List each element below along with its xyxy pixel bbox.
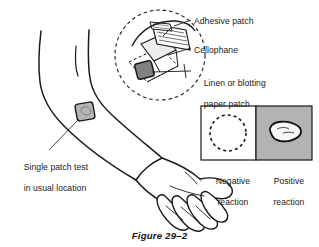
- leader-line-single-patch: [49, 119, 79, 150]
- callout-label-adhesive-patch: Adhesive patch: [194, 16, 253, 26]
- panel-label-negative-line2: reaction: [217, 197, 248, 207]
- panel-label-positive-line1: Positive: [274, 176, 305, 186]
- panel-label-negative-reaction: Negative reaction: [202, 166, 254, 218]
- callout-label-linen-line1: Linen or blotting: [204, 78, 266, 88]
- panel-label-negative-line1: Negative: [216, 176, 250, 186]
- arm-patch: [75, 102, 96, 122]
- callout-label-single-line2: in usual location: [24, 183, 86, 193]
- callout-label-cellophane: Cellophane: [194, 45, 238, 55]
- callout-label-single-patch-test: Single patch test in usual location: [14, 152, 88, 204]
- panel-label-positive-line2: reaction: [273, 197, 304, 207]
- callout-label-linen-line2: paper patch: [204, 99, 250, 109]
- panel-label-positive-reaction: Positive reaction: [257, 166, 311, 218]
- figure-container: Adhesive patch Cellophane Linen or blott…: [0, 0, 319, 247]
- callout-label-single-line1: Single patch test: [24, 162, 88, 172]
- figure-caption: Figure 29–2: [0, 230, 319, 241]
- positive-reaction-marker: [270, 122, 301, 142]
- callout-label-linen-paper-patch: Linen or blotting paper patch: [194, 68, 266, 120]
